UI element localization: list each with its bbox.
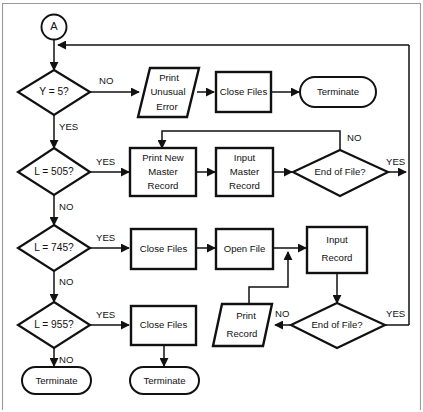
- edge-label-l745-no: NO: [59, 276, 73, 287]
- node-decision-l-equals-745[interactable]: L = 745?: [18, 225, 90, 271]
- edge-label-eof2-no: NO: [275, 308, 289, 319]
- close-files-3-label: Close Files: [140, 319, 188, 330]
- edge-label-y5-no: NO: [99, 75, 113, 86]
- node-end-of-file-2[interactable]: End of File?: [291, 303, 385, 348]
- terminate-3-label: Terminate: [143, 375, 185, 386]
- end-of-file-1-label: End of File?: [314, 166, 365, 177]
- print-record-line2: Record: [227, 328, 258, 339]
- close-files-2-label: Close Files: [140, 243, 188, 254]
- node-print-unusual-error[interactable]: Print Unusual Error: [138, 68, 199, 117]
- print-new-master-record-line1: Print New: [142, 152, 184, 163]
- node-print-record[interactable]: Print Record: [213, 304, 272, 346]
- node-terminate-3[interactable]: Terminate: [130, 367, 199, 394]
- print-new-master-record-line3: Record: [148, 180, 179, 191]
- node-terminate-2[interactable]: Terminate: [22, 367, 91, 394]
- print-unusual-error-line3: Error: [156, 101, 178, 112]
- terminate-2-label: Terminate: [35, 375, 77, 386]
- print-new-master-record-line2: Master: [148, 166, 178, 177]
- decision-l-equals-745-label: L = 745?: [34, 242, 74, 253]
- connector-a-label: A: [50, 20, 58, 32]
- node-input-master-record[interactable]: Input Master Record: [216, 148, 273, 196]
- decision-l-equals-505-label: L = 505?: [34, 166, 74, 177]
- flowchart-canvas: A Y = 5? Print Unusual Error Close Files…: [0, 0, 423, 412]
- decision-l-equals-955-label: L = 955?: [34, 319, 74, 330]
- end-of-file-2-label: End of File?: [311, 319, 362, 330]
- flowchart-diagram: A Y = 5? Print Unusual Error Close Files…: [0, 0, 423, 412]
- close-files-1-label: Close Files: [220, 86, 268, 97]
- node-close-files-3[interactable]: Close Files: [131, 306, 196, 345]
- input-master-record-line1: Input: [234, 152, 256, 163]
- input-master-record-line2: Master: [230, 166, 260, 177]
- edge-label-y5-yes: YES: [59, 121, 78, 132]
- edge-label-l955-no: NO: [59, 354, 73, 365]
- open-file-label: Open File: [224, 243, 266, 254]
- node-decision-y-equals-5[interactable]: Y = 5?: [18, 70, 90, 115]
- node-close-files-1[interactable]: Close Files: [216, 72, 271, 112]
- print-unusual-error-line1: Print: [159, 72, 179, 83]
- node-print-new-master-record[interactable]: Print New Master Record: [130, 148, 196, 196]
- print-record-line1: Print: [236, 310, 256, 321]
- edge-label-l505-yes: YES: [96, 156, 115, 167]
- input-record-line1: Input: [326, 234, 348, 245]
- node-decision-l-equals-955[interactable]: L = 955?: [18, 302, 90, 348]
- edge-label-eof1-no: NO: [347, 132, 361, 143]
- node-decision-l-equals-505[interactable]: L = 505?: [18, 148, 90, 195]
- edge-label-l745-yes: YES: [96, 232, 115, 243]
- decision-y-equals-5-label: Y = 5?: [39, 86, 69, 97]
- input-master-record-line3: Record: [229, 180, 260, 191]
- node-end-of-file-1[interactable]: End of File?: [293, 150, 388, 196]
- node-close-files-2[interactable]: Close Files: [131, 229, 196, 269]
- edge-label-eof1-yes: YES: [386, 156, 405, 167]
- edge-label-eof2-yes: YES: [386, 308, 405, 319]
- print-unusual-error-line2: Unusual: [150, 86, 185, 97]
- node-connector-a[interactable]: A: [42, 15, 67, 40]
- node-open-file[interactable]: Open File: [216, 229, 273, 269]
- edge-label-l955-yes: YES: [96, 309, 115, 320]
- node-input-record[interactable]: Input Record: [307, 227, 367, 273]
- edge-label-l505-no: NO: [59, 201, 73, 212]
- node-terminate-1[interactable]: Terminate: [300, 77, 376, 107]
- input-record-line2: Record: [322, 252, 353, 263]
- terminate-1-label: Terminate: [317, 86, 359, 97]
